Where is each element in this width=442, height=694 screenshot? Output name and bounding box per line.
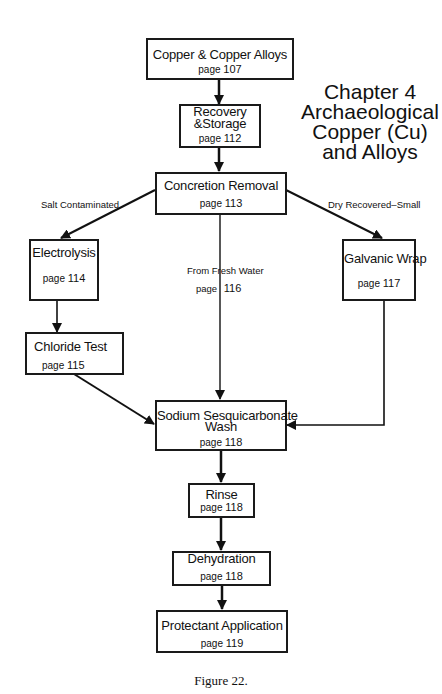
node-title: Rinse — [190, 488, 253, 502]
node-page: page 115 — [27, 359, 122, 372]
node-protectant-application: Protectant Application page 119 — [156, 610, 288, 653]
node-title-line2: Wash — [157, 420, 285, 434]
node-page: page 118 — [190, 501, 253, 514]
node-chloride-test: Chloride Test page 115 — [25, 332, 124, 375]
node-page: page 118 — [157, 436, 285, 449]
edge-label-fresh-water-page: page 116 — [196, 282, 241, 294]
node-title: Dehydration — [174, 552, 269, 566]
figure-caption: Figure 22. — [0, 673, 442, 689]
node-title: Copper & Copper Alloys — [148, 48, 292, 62]
node-title: Concretion Removal — [157, 179, 285, 193]
node-title: Protectant Application — [158, 619, 286, 633]
node-page: page 113 — [157, 197, 285, 210]
edge-label-salt-contaminated: Salt Contaminated — [41, 199, 119, 210]
node-dehydration: Dehydration page 118 — [172, 551, 271, 586]
node-recovery-storage: Recovery &Storage page 112 — [179, 104, 261, 148]
node-sodium-sesquicarbonate-wash: Sodium Sesquicarbonate Wash page 118 — [155, 400, 287, 451]
node-page: page 112 — [181, 132, 259, 145]
node-page: page 119 — [158, 637, 286, 650]
node-page: page 114 — [31, 272, 97, 285]
node-rinse: Rinse page 118 — [188, 483, 255, 518]
chapter-title: Chapter 4 Archaeological Copper (Cu) and… — [300, 82, 440, 162]
node-concretion-removal: Concretion Removal page 113 — [155, 172, 287, 215]
node-title: Chloride Test — [27, 340, 122, 354]
node-title: Electrolysis — [31, 246, 97, 260]
node-title-line2: &Storage — [181, 117, 259, 131]
node-page: page 118 — [174, 570, 269, 583]
node-page: page 117 — [344, 277, 414, 290]
edge-label-fresh-water: From Fresh Water — [187, 265, 264, 276]
node-title: Galvanic Wrap — [344, 252, 414, 266]
node-electrolysis: Electrolysis page 114 — [29, 239, 99, 301]
edge-label-dry-recovered: Dry Recovered–Small — [328, 199, 420, 210]
node-copper-alloys: Copper & Copper Alloys page 107 — [146, 38, 294, 80]
node-galvanic-wrap: Galvanic Wrap page 117 — [342, 239, 416, 301]
node-page: page 107 — [148, 63, 292, 76]
